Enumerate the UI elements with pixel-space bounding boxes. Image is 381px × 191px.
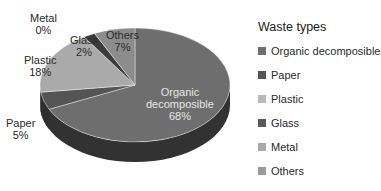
legend-swatch-others <box>258 167 266 175</box>
label-organic-line2: decomposible <box>146 98 214 110</box>
legend-item-others: Others <box>258 159 380 183</box>
legend-label-metal: Metal <box>271 141 298 153</box>
legend: Waste types Organic decomposible Paper P… <box>258 20 380 183</box>
label-plastic: Plastic 18% <box>24 54 56 78</box>
label-glass: Glass 2% <box>70 34 98 58</box>
legend-label-paper: Paper <box>271 69 300 81</box>
legend-item-glass: Glass <box>258 111 380 135</box>
label-others: Others 7% <box>106 29 139 53</box>
label-paper-pct: 5% <box>6 129 35 141</box>
legend-label-organic: Organic decomposible <box>271 45 380 57</box>
label-metal-pct: 0% <box>30 24 57 36</box>
legend-swatch-plastic <box>258 95 266 103</box>
label-paper-name: Paper <box>6 117 35 129</box>
legend-item-metal: Metal <box>258 135 380 159</box>
legend-swatch-organic <box>258 47 266 55</box>
label-metal-name: Metal <box>30 12 57 24</box>
legend-item-paper: Paper <box>258 63 380 87</box>
label-plastic-pct: 18% <box>24 66 56 78</box>
label-glass-pct: 2% <box>70 46 98 58</box>
legend-item-organic: Organic decomposible <box>258 39 380 63</box>
label-others-pct: 7% <box>106 41 139 53</box>
legend-swatch-paper <box>258 71 266 79</box>
label-metal: Metal 0% <box>30 12 57 36</box>
label-organic-pct: 68% <box>146 110 214 122</box>
legend-item-plastic: Plastic <box>258 87 380 111</box>
label-organic: Organic decomposible 68% <box>146 86 214 122</box>
legend-title: Waste types <box>258 20 380 34</box>
label-plastic-name: Plastic <box>24 54 56 66</box>
legend-swatch-metal <box>258 143 266 151</box>
label-others-name: Others <box>106 29 139 41</box>
legend-label-glass: Glass <box>271 117 299 129</box>
label-organic-line1: Organic <box>146 86 214 98</box>
label-paper: Paper 5% <box>6 117 35 141</box>
label-glass-name: Glass <box>70 34 98 46</box>
legend-label-others: Others <box>271 165 304 177</box>
legend-label-plastic: Plastic <box>271 93 303 105</box>
legend-swatch-glass <box>258 119 266 127</box>
